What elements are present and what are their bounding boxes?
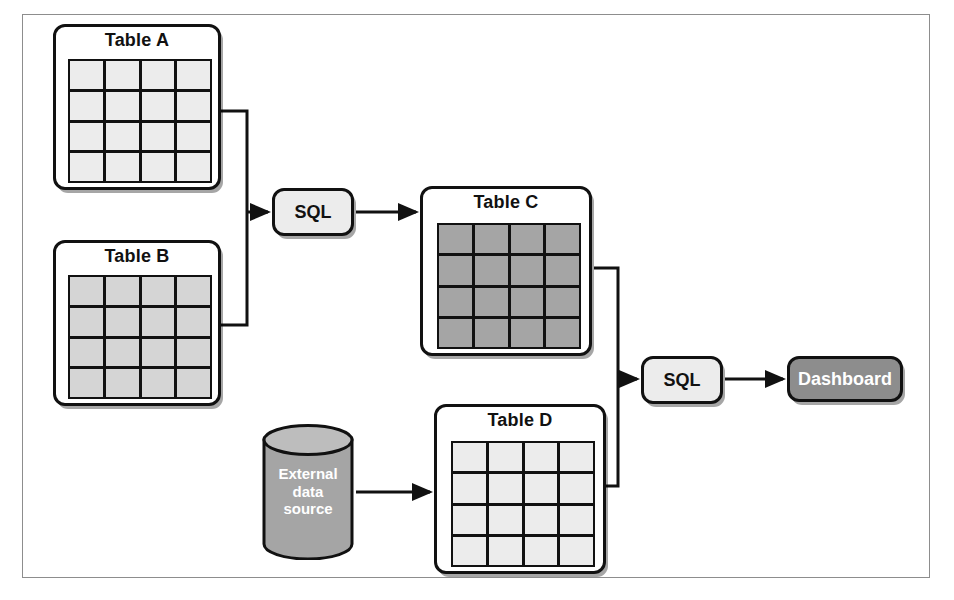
- table-d-grid: [451, 441, 595, 567]
- table-b-title: Table B: [56, 247, 218, 267]
- table-d-title: Table D: [437, 411, 603, 431]
- sql-process-1-label: SQL: [294, 202, 331, 223]
- dashboard-node[interactable]: Dashboard: [787, 356, 903, 402]
- table-a-grid: [68, 59, 212, 183]
- diagram-canvas: Table A Table B Table C Table D: [0, 0, 954, 600]
- table-card-a[interactable]: Table A: [53, 24, 221, 190]
- table-card-d[interactable]: Table D: [434, 404, 606, 574]
- sql-process-2-label: SQL: [663, 370, 700, 391]
- dashboard-label: Dashboard: [798, 369, 892, 390]
- table-card-b[interactable]: Table B: [53, 240, 221, 406]
- table-a-title: Table A: [56, 31, 218, 51]
- sql-process-2[interactable]: SQL: [641, 356, 723, 404]
- table-card-c[interactable]: Table C: [420, 186, 592, 356]
- sql-process-1[interactable]: SQL: [272, 188, 354, 236]
- table-b-grid: [68, 275, 212, 399]
- external-data-source-node[interactable]: External data source: [262, 424, 354, 560]
- table-c-grid: [437, 223, 581, 349]
- database-cylinder-icon: [262, 424, 354, 560]
- table-c-title: Table C: [423, 193, 589, 213]
